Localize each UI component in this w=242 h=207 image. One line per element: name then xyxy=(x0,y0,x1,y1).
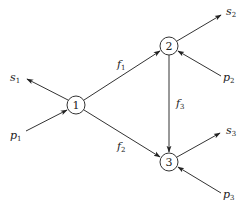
label-s3: s3 xyxy=(226,124,236,138)
edge-s3 xyxy=(177,133,220,157)
node-1: 1 xyxy=(67,96,85,114)
label-f1: f1 xyxy=(116,58,126,72)
node-3: 3 xyxy=(160,153,178,171)
network-diagram: 1 2 3 f1 f2 f3 s1 p1 s2 p2 s3 p3 xyxy=(0,0,242,207)
node-2: 2 xyxy=(160,37,178,55)
label-f2: f2 xyxy=(116,140,126,154)
svg-text:1: 1 xyxy=(73,99,80,112)
edge-f1 xyxy=(84,51,160,100)
label-f3: f3 xyxy=(175,97,185,111)
edge-s2 xyxy=(177,15,221,41)
edge-p1 xyxy=(26,110,67,131)
label-p2: p2 xyxy=(223,71,235,85)
edge-p3 xyxy=(178,167,221,193)
svg-text:3: 3 xyxy=(166,156,173,169)
edge-s1 xyxy=(27,79,68,100)
label-s1: s1 xyxy=(10,71,20,85)
edge-p2 xyxy=(178,51,221,76)
label-s2: s2 xyxy=(226,5,236,19)
svg-text:2: 2 xyxy=(166,40,173,53)
label-p1: p1 xyxy=(10,129,22,143)
label-p3: p3 xyxy=(223,188,235,202)
